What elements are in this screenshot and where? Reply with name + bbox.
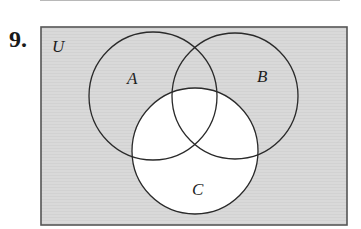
universe-label: U — [52, 37, 66, 56]
venn-diagram: U A B C — [0, 0, 361, 229]
set-a-label: A — [126, 69, 138, 88]
set-c-label: C — [192, 180, 204, 199]
set-b-label: B — [257, 67, 268, 86]
